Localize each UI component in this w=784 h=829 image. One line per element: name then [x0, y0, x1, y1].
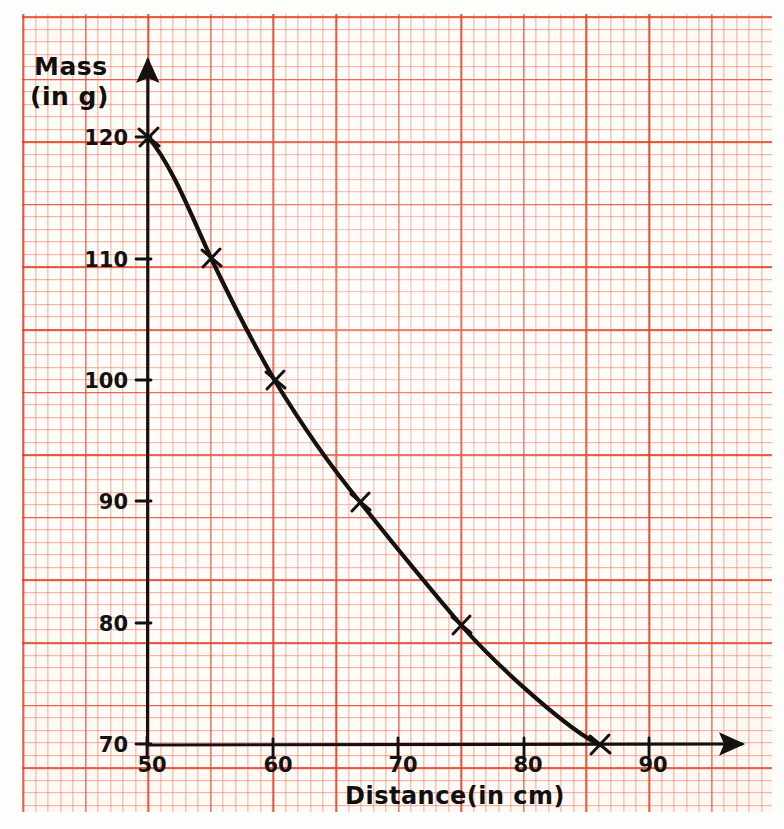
graph-image: Mass (in g) Distance(in cm) 120 110 100 … — [0, 0, 784, 829]
x-axis-line — [148, 744, 743, 745]
data-point-55-110 — [202, 249, 221, 267]
data-curve — [148, 137, 600, 745]
data-point-67-90 — [351, 493, 370, 511]
data-point-75-80 — [452, 616, 471, 634]
data-point-60-100 — [266, 371, 285, 389]
ink-layer — [0, 0, 784, 829]
data-point-markers — [139, 128, 610, 754]
x-axis-ticks — [147, 737, 649, 757]
